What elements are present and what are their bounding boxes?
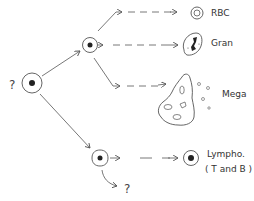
mega-cell [158, 74, 210, 125]
myeloid-progenitor-cell [83, 38, 98, 53]
lymphoid-progenitor-cell [92, 150, 108, 166]
arrow-lymphoid-to-unknown [102, 170, 117, 186]
lympho-sublabel: ( T and B ) [205, 164, 252, 174]
lympho-label: Lympho. [207, 149, 245, 159]
hematopoiesis-diagram: ? RBC Gran [0, 0, 254, 201]
arrow-stem-to-myeloid [42, 51, 80, 76]
lymphoid-unknown-question-mark: ? [124, 182, 130, 196]
stem-cell: ? [9, 73, 42, 93]
gran-cell [183, 33, 202, 55]
rbc-label: RBC [211, 8, 230, 18]
mega-label: Mega [222, 89, 247, 99]
lympho-cell [184, 151, 199, 166]
gran-label: Gran [211, 38, 233, 48]
mega-branch [94, 58, 166, 86]
rbc-cell [191, 7, 203, 19]
arrow-stem-to-lymphoid [40, 94, 90, 148]
rbc-branch [98, 12, 177, 31]
stem-cell-question-mark: ? [9, 78, 15, 92]
